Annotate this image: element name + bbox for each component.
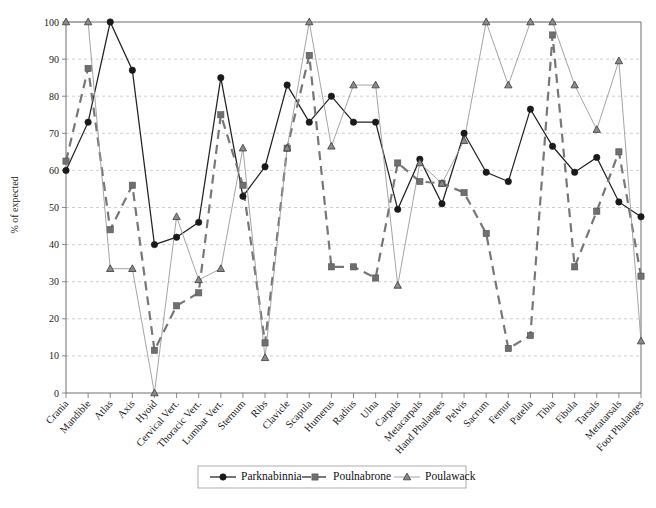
data-point [527, 106, 533, 112]
data-point [173, 234, 179, 240]
data-point [173, 213, 180, 220]
data-point [62, 18, 69, 25]
y-tick-label: 30 [49, 276, 59, 287]
data-point [593, 126, 600, 133]
data-point [482, 18, 489, 25]
data-point [594, 208, 600, 214]
data-point [217, 265, 224, 272]
data-point [195, 219, 201, 225]
data-point [350, 264, 356, 270]
data-point [571, 81, 578, 88]
data-point [262, 163, 268, 169]
x-axis-labels: CraniaMandibleAtlasAxisHyoidCervical Ver… [44, 397, 646, 455]
data-point [572, 264, 578, 270]
legend-label-poulnabrone: Poulnabrone [333, 470, 391, 482]
legend-label-parknabinnia: Parknabinnia [241, 470, 302, 482]
x-tick-label: Patella [508, 398, 536, 427]
data-point [373, 275, 379, 281]
data-point [306, 18, 313, 25]
data-point [312, 474, 318, 480]
data-point [107, 227, 113, 233]
data-point [306, 52, 312, 58]
data-point [616, 199, 622, 205]
data-point [505, 81, 512, 88]
data-point [505, 178, 511, 184]
x-tick-label: Atlas [92, 398, 115, 422]
data-point [549, 32, 555, 38]
data-point [328, 93, 334, 99]
data-point [638, 214, 644, 220]
data-point [350, 119, 356, 125]
legend-label-poulawack: Poulawack [425, 470, 476, 482]
data-point [129, 265, 136, 272]
y-axis-ticks: 0102030405060708090100 [44, 17, 66, 399]
data-point [173, 303, 179, 309]
data-point [350, 81, 357, 88]
data-point [615, 57, 622, 64]
data-point [85, 65, 91, 71]
data-point [549, 18, 556, 25]
data-point [417, 178, 423, 184]
data-point [107, 265, 114, 272]
y-tick-label: 40 [49, 239, 59, 250]
data-point [616, 149, 622, 155]
data-point [218, 74, 224, 80]
y-tick-label: 10 [49, 350, 59, 361]
data-point [63, 167, 69, 173]
data-point [461, 130, 467, 136]
data-point [151, 389, 158, 396]
data-point [594, 154, 600, 160]
data-point [240, 182, 246, 188]
data-point [461, 190, 467, 196]
y-tick-label: 100 [44, 17, 59, 28]
data-point [328, 142, 335, 149]
data-point [394, 282, 401, 289]
data-point [395, 206, 401, 212]
data-point [151, 241, 157, 247]
data-point [571, 169, 577, 175]
data-point [306, 119, 312, 125]
data-point [637, 337, 644, 344]
data-point [218, 112, 224, 118]
data-point [483, 230, 489, 236]
y-tick-label: 80 [49, 91, 59, 102]
data-point [261, 354, 268, 361]
data-point [63, 158, 69, 164]
data-point [129, 182, 135, 188]
legend: ParknabinniaPoulnabronePoulawack [198, 466, 476, 488]
x-tick-label: Radius [330, 398, 358, 427]
data-point [328, 264, 334, 270]
data-point [107, 19, 113, 25]
line-chart: 0102030405060708090100 CraniaMandibleAtl… [0, 0, 656, 508]
data-point [483, 169, 489, 175]
data-point [372, 81, 379, 88]
data-point [284, 82, 290, 88]
gridlines [66, 59, 641, 356]
data-point [220, 474, 226, 480]
data-point [505, 345, 511, 351]
data-point [151, 347, 157, 353]
data-point [85, 119, 91, 125]
y-tick-label: 0 [54, 388, 59, 399]
data-point [527, 332, 533, 338]
data-point [196, 290, 202, 296]
chart-figure: 0102030405060708090100 CraniaMandibleAtl… [0, 0, 656, 508]
data-point [262, 340, 268, 346]
y-tick-label: 50 [49, 202, 59, 213]
data-point [638, 273, 644, 279]
y-tick-label: 70 [49, 128, 59, 139]
y-tick-label: 60 [49, 165, 59, 176]
data-point [395, 160, 401, 166]
data-point [240, 193, 246, 199]
y-tick-label: 90 [49, 54, 59, 65]
data-point [549, 143, 555, 149]
data-point [527, 18, 534, 25]
data-point [372, 119, 378, 125]
y-tick-label: 20 [49, 313, 59, 324]
data-point [129, 67, 135, 73]
data-point [84, 18, 91, 25]
data-point [439, 201, 445, 207]
data-point [239, 144, 246, 151]
y-axis-title: % of expected [9, 176, 20, 233]
